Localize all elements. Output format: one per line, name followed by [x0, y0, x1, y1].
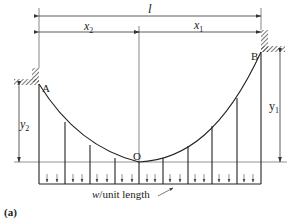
point-o-label: O — [133, 150, 141, 162]
load-label: w/unit length — [92, 188, 150, 200]
extension-lines — [39, 8, 261, 162]
x2-label: x2 — [83, 19, 93, 35]
span-label: l — [148, 1, 152, 16]
y2-label: y2 — [19, 117, 29, 133]
load-arrows — [47, 174, 253, 182]
load-leader — [158, 188, 173, 196]
figure-caption: (a) — [4, 206, 17, 219]
x1-label: x1 — [193, 18, 203, 34]
y1-label: y1 — [269, 99, 279, 115]
suspension-cable-diagram: l x2 x1 A B y2 y1 O — [0, 0, 293, 224]
cable-curve — [39, 52, 261, 162]
point-a-label: A — [42, 82, 50, 94]
hangers — [39, 52, 261, 184]
support-a — [14, 68, 39, 85]
support-b — [261, 30, 285, 52]
